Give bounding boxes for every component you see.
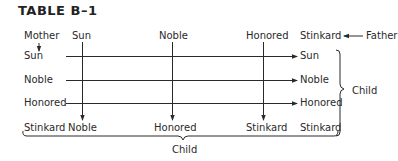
diagram-lines	[0, 0, 398, 161]
bottom-brace	[23, 131, 338, 140]
right-brace	[336, 50, 344, 136]
